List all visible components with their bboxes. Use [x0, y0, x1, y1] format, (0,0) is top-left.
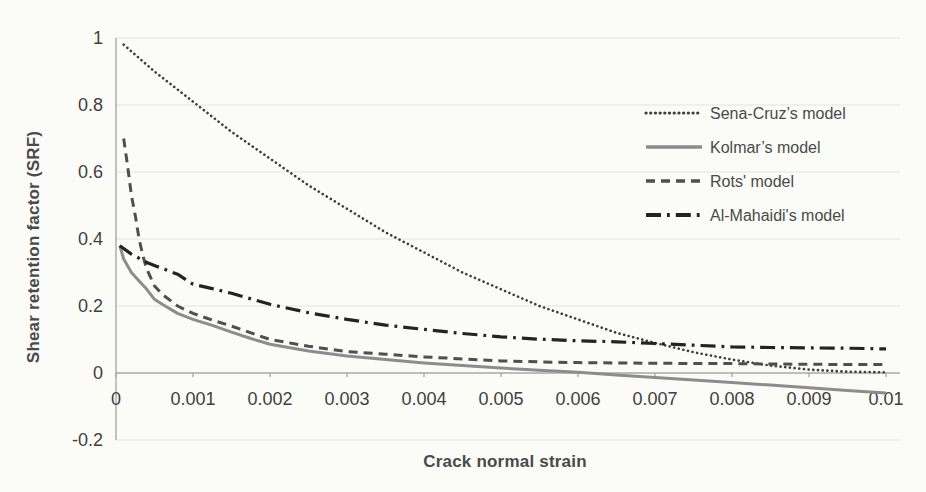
legend-entry-2: Kolmar’s model [646, 139, 821, 156]
y-tick-label-0: 0 [93, 363, 103, 383]
legend-entry-1: Sena-Cruz’s model [646, 105, 846, 122]
x-tick-label-0.006: 0.006 [555, 389, 600, 409]
x-tick-label-0.005: 0.005 [478, 389, 523, 409]
y-tick-label-0.6: 0.6 [78, 162, 103, 182]
y-axis-title: Shear retention factor (SRF) [24, 87, 46, 407]
legend-entry-3: Rots' model [646, 173, 794, 190]
x-tick-label-0.009: 0.009 [786, 389, 831, 409]
y-tick-label-1: 1 [93, 28, 103, 48]
x-tick-label-0.001: 0.001 [170, 389, 215, 409]
x-tick-label-0.004: 0.004 [401, 389, 446, 409]
y-tick-label-0.2: 0.2 [78, 296, 103, 316]
x-tick-label-0.007: 0.007 [632, 389, 677, 409]
series-line-solid [120, 246, 886, 393]
x-tick-label-0.002: 0.002 [247, 389, 292, 409]
x-tick-label-0: 0 [111, 389, 121, 409]
x-axis-title: Crack normal strain [355, 452, 655, 474]
chart-figure: 10.80.60.40.20-0.200.0010.0020.0030.0040… [0, 0, 926, 492]
y-tick-label-0.8: 0.8 [78, 95, 103, 115]
legend-label-3: Rots' model [710, 173, 794, 190]
y-tick-label-0.4: 0.4 [78, 229, 103, 249]
x-tick-label-0.003: 0.003 [324, 389, 369, 409]
legend-label-4: Al-Mahaidi's model [710, 207, 845, 224]
y-tick-label--0.2: -0.2 [72, 430, 103, 450]
legend-label-2: Kolmar’s model [710, 139, 821, 156]
legend-label-1: Sena-Cruz’s model [710, 105, 846, 122]
legend-entry-4: Al-Mahaidi's model [646, 207, 845, 224]
line-chart-canvas: 10.80.60.40.20-0.200.0010.0020.0030.0040… [0, 0, 926, 492]
x-tick-label-0.008: 0.008 [709, 389, 754, 409]
